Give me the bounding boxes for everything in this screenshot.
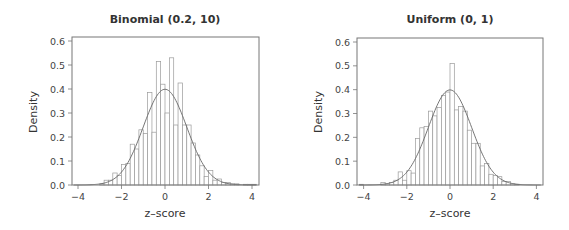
histogram-bar [411, 173, 415, 185]
x-tick-label: 4 [249, 191, 255, 202]
x-tick-label: −2 [400, 191, 414, 202]
x-tick-label: −4 [71, 191, 85, 202]
histogram-bar [476, 143, 480, 185]
histogram-bar [459, 106, 463, 185]
histogram-bar [485, 164, 489, 185]
y-axis: 0.00.10.20.30.40.50.6 [50, 36, 72, 191]
histogram-bar [493, 175, 497, 185]
histogram-bar [420, 128, 424, 185]
histogram-bar [204, 177, 208, 185]
x-tick-label: 0 [162, 191, 168, 202]
y-tick-label: 0.3 [335, 108, 350, 119]
x-tick-label: −2 [114, 191, 128, 202]
x-tick-label: 2 [490, 191, 496, 202]
histogram-bar [433, 116, 437, 185]
y-tick-label: 0.0 [50, 180, 65, 191]
figure: Binomial (0.2, 10) 0.00.10.20.30.40.50.6… [0, 0, 569, 230]
histogram-bar [424, 127, 428, 185]
y-axis: 0.00.10.20.30.40.50.6 [335, 37, 357, 191]
histogram-bar [135, 149, 139, 185]
histogram-bar [467, 130, 471, 185]
histogram-bar [441, 96, 445, 185]
histogram-bar [174, 125, 178, 185]
y-axis-label: Density [312, 91, 325, 133]
y-tick-label: 0.1 [50, 156, 65, 167]
histogram-bar [156, 61, 160, 185]
y-tick-label: 0.5 [50, 60, 65, 71]
histogram-bar [402, 180, 406, 185]
histogram-bar [117, 175, 121, 185]
histogram-bar [463, 111, 467, 185]
histogram-bar [454, 110, 458, 185]
chart-title: Binomial (0.2, 10) [110, 13, 221, 26]
x-tick-label: 2 [205, 191, 211, 202]
chart-title: Uniform (0, 1) [407, 13, 494, 26]
histogram-bar [480, 166, 484, 185]
x-tick-label: 4 [533, 191, 539, 202]
y-tick-label: 0.2 [50, 132, 65, 143]
y-tick-label: 0.3 [50, 108, 65, 119]
histogram-bars [359, 63, 519, 185]
histogram-bar [213, 180, 217, 185]
x-axis-label: z–score [145, 207, 186, 220]
y-tick-label: 0.4 [50, 84, 65, 95]
y-axis-label: Density [27, 91, 40, 133]
y-tick-label: 0.5 [335, 60, 350, 71]
histogram-bar [191, 143, 195, 185]
x-tick-label: −4 [357, 191, 371, 202]
histogram-bar [472, 143, 476, 185]
histogram-bar [169, 58, 173, 185]
histogram-bar [152, 132, 156, 185]
x-axis-label: z–score [430, 207, 471, 220]
panel-binomial: Binomial (0.2, 10) 0.00.10.20.30.40.50.6… [27, 13, 259, 220]
y-tick-label: 0.2 [335, 132, 350, 143]
y-tick-label: 0.4 [335, 84, 350, 95]
histogram-bar [450, 63, 454, 185]
histogram-bar [126, 163, 130, 185]
histogram-bar [143, 133, 147, 185]
histogram-bar [446, 92, 450, 185]
histogram-bar [489, 174, 493, 185]
y-tick-label: 0.0 [335, 180, 350, 191]
y-tick-label: 0.6 [50, 36, 65, 47]
histogram-bar [182, 125, 186, 185]
x-axis: −4−2024 [71, 185, 255, 202]
x-axis: −4−2024 [357, 185, 540, 202]
x-tick-label: 0 [447, 191, 453, 202]
y-tick-label: 0.6 [335, 37, 350, 48]
histogram-bar [195, 155, 199, 185]
histogram-bar [437, 108, 441, 185]
histogram-bar [165, 113, 169, 185]
histogram-bar [187, 125, 191, 185]
panel-uniform: Uniform (0, 1) 0.00.10.20.30.40.50.6 −4−… [312, 13, 543, 220]
y-tick-label: 0.1 [335, 156, 350, 167]
histogram-bar [178, 83, 182, 185]
histogram-bar [415, 139, 419, 185]
histogram-bars [100, 58, 257, 185]
histogram-bar [139, 130, 143, 185]
histogram-bar [407, 171, 411, 185]
histogram-bar [200, 166, 204, 185]
histogram-bar [161, 84, 165, 185]
